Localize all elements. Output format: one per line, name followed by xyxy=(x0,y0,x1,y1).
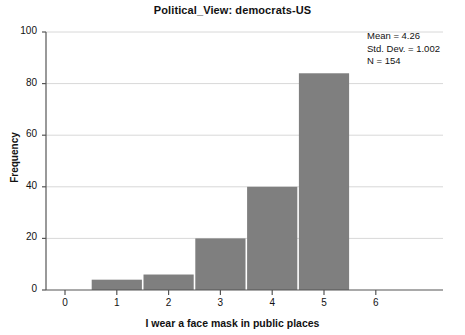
histogram-bar xyxy=(247,187,297,290)
histogram-bar xyxy=(144,275,194,290)
gridlines xyxy=(46,32,443,238)
histogram-bar xyxy=(195,238,245,290)
histogram-bar xyxy=(299,73,349,290)
histogram-chart: Political_View: democrats-US Mean = 4.26… xyxy=(0,0,465,335)
plot-area xyxy=(0,0,465,335)
histogram-bar xyxy=(92,280,142,290)
bars-group xyxy=(92,73,349,290)
